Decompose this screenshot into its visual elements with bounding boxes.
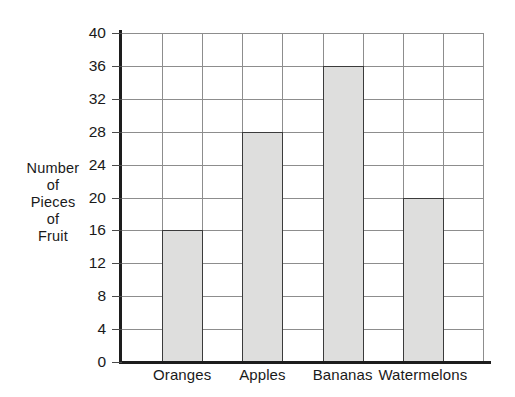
bar-chart-figure: Number of Pieces of Fruit OrangesApplesB… [0, 0, 515, 397]
bar-watermelons [403, 198, 444, 363]
x-axis-label-watermelons: Watermelons [353, 366, 493, 384]
y-axis-tick-label: 4 [66, 321, 106, 337]
bar-apples [242, 132, 283, 362]
gridline-horizontal [122, 165, 483, 166]
y-axis-tick-label: 8 [66, 288, 106, 304]
y-axis-tick-label: 28 [66, 124, 106, 140]
bar-oranges [162, 230, 203, 362]
y-axis-tick [112, 263, 122, 264]
y-axis-tick [112, 165, 122, 166]
y-axis-tick-label: 32 [66, 91, 106, 107]
y-axis-line [119, 30, 122, 364]
y-axis-tick-label: 24 [66, 157, 106, 173]
y-axis-tick-label: 20 [66, 190, 106, 206]
y-axis-tick-label: 40 [66, 25, 106, 41]
y-axis-tick [112, 230, 122, 231]
plot-area [122, 33, 483, 362]
y-axis-tick [112, 33, 122, 34]
y-axis-tick-label: 36 [66, 58, 106, 74]
gridline-vertical [483, 33, 484, 362]
y-axis-tick [112, 198, 122, 199]
y-axis-tick [112, 66, 122, 67]
y-axis-tick [112, 99, 122, 100]
y-axis-tick-label: 0 [66, 354, 106, 370]
gridline-horizontal [122, 66, 483, 67]
bar-bananas [323, 66, 364, 362]
y-axis-tick-label: 12 [66, 255, 106, 271]
x-axis-line [119, 361, 491, 364]
gridline-horizontal [122, 99, 483, 100]
y-axis-tick [112, 362, 122, 363]
y-axis-tick [112, 329, 122, 330]
gridline-horizontal [122, 33, 483, 34]
y-axis-tick [112, 132, 122, 133]
y-axis-tick [112, 296, 122, 297]
y-axis-tick-label: 16 [66, 222, 106, 238]
gridline-horizontal [122, 132, 483, 133]
